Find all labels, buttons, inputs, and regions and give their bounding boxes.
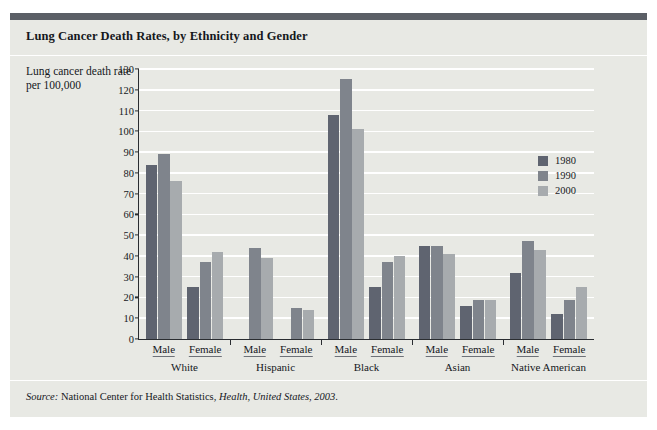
bar (576, 287, 588, 339)
x-ethnicity-label: White (171, 361, 198, 373)
bar (485, 300, 497, 339)
x-ethnicity-label: Hispanic (256, 361, 295, 373)
bar (431, 246, 443, 339)
gridline (139, 234, 594, 236)
y-tick-mark (135, 68, 139, 69)
gridline (139, 131, 594, 133)
bar (158, 154, 170, 339)
y-tick-label: 40 (124, 250, 135, 261)
x-gender-label: Female (553, 343, 585, 357)
legend-item[interactable]: 1980 (538, 153, 576, 168)
page-title: Lung Cancer Death Rates, by Ethnicity an… (26, 29, 308, 44)
x-group-tick (412, 339, 413, 345)
y-tick-label: 80 (124, 167, 135, 178)
x-ethnicity-label: Native American (511, 361, 586, 373)
x-gender-label: Female (462, 343, 494, 357)
y-tick-mark (135, 276, 139, 277)
gridline (139, 172, 594, 174)
bar (340, 79, 352, 339)
y-tick-mark (135, 172, 139, 173)
plot-area: 0102030405060708090100110120130 MaleFema… (110, 61, 610, 361)
y-tick-label: 130 (118, 64, 134, 75)
plot-canvas: 0102030405060708090100110120130 MaleFema… (138, 69, 594, 340)
legend-swatch-icon (538, 156, 548, 166)
source-body: National Center for Health Statistics, (58, 391, 219, 402)
y-tick-label: 70 (124, 188, 135, 199)
y-tick-label: 120 (118, 84, 134, 95)
bar (522, 241, 534, 339)
bar (419, 246, 431, 339)
top-rule (10, 13, 647, 20)
bar (187, 287, 199, 339)
bar (170, 181, 182, 339)
gridline (139, 151, 594, 153)
y-tick-label: 0 (129, 334, 134, 345)
x-group-tick (503, 339, 504, 345)
source-publication: Health, United States, 2003 (219, 391, 335, 402)
bar (200, 262, 212, 339)
y-tick-mark (135, 297, 139, 298)
y-tick-label: 90 (124, 147, 135, 158)
y-tick-mark (135, 193, 139, 194)
x-gender-label: Male (334, 343, 357, 357)
bar (291, 308, 303, 339)
bar (382, 262, 394, 339)
source-label: Source: (26, 391, 58, 402)
bar (146, 165, 158, 339)
x-group-tick (230, 339, 231, 345)
gridline (139, 110, 594, 112)
y-tick-mark (135, 89, 139, 90)
y-tick-label: 110 (119, 105, 134, 116)
bar (212, 252, 224, 339)
x-gender-label: Male (516, 343, 539, 357)
x-gender-label: Male (243, 343, 266, 357)
bar (261, 258, 273, 339)
y-tick-mark (135, 235, 139, 236)
bar (510, 273, 522, 339)
source-divider (10, 380, 647, 381)
gridline (139, 214, 594, 216)
y-tick-mark (135, 151, 139, 152)
x-gender-label: Male (425, 343, 448, 357)
gridline (139, 89, 594, 91)
bar (534, 250, 546, 339)
bar (394, 256, 406, 339)
bar (460, 306, 472, 339)
bar (303, 310, 315, 339)
y-tick-mark (135, 131, 139, 132)
x-gender-label: Female (280, 343, 312, 357)
legend-swatch-icon (538, 171, 548, 181)
source-terminator: . (335, 391, 338, 402)
x-gender-label: Male (152, 343, 175, 357)
bar (564, 300, 576, 339)
y-tick-label: 60 (124, 209, 135, 220)
y-tick-mark (135, 214, 139, 215)
y-tick-label: 10 (124, 313, 135, 324)
bar (473, 300, 485, 339)
legend-item[interactable]: 1990 (538, 168, 576, 183)
bar (328, 115, 340, 339)
legend-swatch-icon (538, 186, 548, 196)
figure-panel: Lung Cancer Death Rates, by Ethnicity an… (10, 13, 647, 417)
legend-label: 1980 (555, 155, 576, 166)
chart-legend: 198019902000 (538, 153, 576, 198)
gridline (139, 193, 594, 195)
bar (443, 254, 455, 339)
y-tick-mark (135, 255, 139, 256)
gridline (139, 68, 594, 70)
x-group-tick (321, 339, 322, 345)
bar (352, 129, 364, 339)
bar (249, 248, 261, 339)
x-gender-label: Female (189, 343, 221, 357)
y-tick-mark (135, 318, 139, 319)
source-note: Source: National Center for Health Stati… (26, 391, 338, 402)
x-ethnicity-label: Black (354, 361, 380, 373)
bar (551, 314, 563, 339)
x-gender-label: Female (371, 343, 403, 357)
legend-label: 2000 (555, 185, 576, 196)
y-tick-mark (135, 338, 139, 339)
x-ethnicity-label: Asian (445, 361, 471, 373)
legend-item[interactable]: 2000 (538, 183, 576, 198)
y-tick-mark (135, 110, 139, 111)
y-tick-label: 30 (124, 271, 135, 282)
